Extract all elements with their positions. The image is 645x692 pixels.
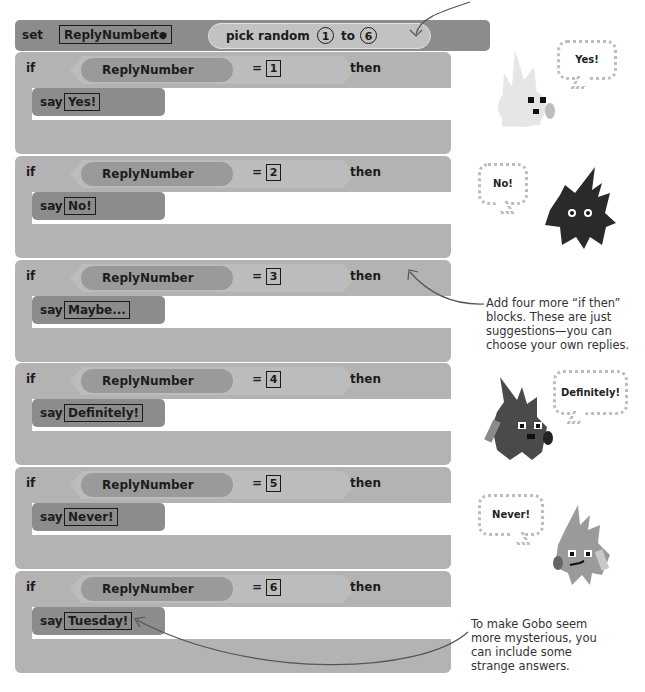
say-text-input[interactable]: Yes! (64, 93, 100, 111)
if-header: if ReplyNumber = 5 then (15, 467, 451, 503)
say-block[interactable]: say Maybe... (32, 296, 165, 324)
then-keyword: then (350, 372, 381, 386)
variable-name: ReplyNumber (102, 63, 194, 77)
speech-bubble: No! (478, 163, 528, 205)
equals-operator: = (252, 269, 262, 283)
say-block[interactable]: say Yes! (32, 88, 165, 116)
gobo-character-white (482, 45, 562, 135)
say-keyword: say (40, 510, 63, 524)
variable-name: ReplyNumber (102, 582, 194, 596)
variable-reporter[interactable]: ReplyNumber (81, 58, 233, 82)
if-arm (15, 399, 32, 433)
speech-bubble: Yes! (557, 40, 617, 80)
if-header: if ReplyNumber = 6 then (15, 571, 451, 607)
variable-reporter[interactable]: ReplyNumber (81, 369, 233, 393)
say-text-input[interactable]: No! (64, 197, 96, 215)
speech-bubble: Definitely! (553, 370, 628, 415)
if-header: if ReplyNumber = 4 then (15, 363, 451, 399)
compare-value-input[interactable]: 3 (266, 268, 281, 285)
compare-value-input[interactable]: 2 (266, 164, 281, 181)
equals-operator: = (252, 372, 262, 386)
gobo-character-dark (482, 372, 562, 467)
annotation-add-more: Add four more “if then” blocks. These ar… (486, 296, 636, 352)
if-keyword: if (26, 165, 35, 179)
if-arm (15, 192, 32, 226)
variable-name: ReplyNumber (102, 271, 194, 285)
compare-value-input[interactable]: 4 (266, 371, 281, 388)
pick-random-block[interactable]: pick random 1 to 6 (208, 23, 431, 49)
if-header: if ReplyNumber = 3 then (15, 260, 451, 296)
gobo-character-grey (540, 495, 620, 590)
if-header: if ReplyNumber = 2 then (15, 156, 451, 192)
if-keyword: if (26, 269, 35, 283)
say-text-input[interactable]: Tuesday! (64, 612, 132, 630)
if-footer (15, 535, 451, 569)
if-footer (15, 328, 451, 362)
equals-operator: = (252, 165, 262, 179)
variable-name: ReplyNumber (64, 28, 156, 42)
if-keyword: if (26, 476, 35, 490)
equals-operator: = (252, 476, 262, 490)
random-to-input[interactable]: 6 (360, 27, 377, 44)
variable-name: ReplyNumber (102, 167, 194, 181)
if-keyword: if (26, 580, 35, 594)
say-keyword: say (40, 614, 63, 628)
variable-reporter[interactable]: ReplyNumber (81, 473, 233, 497)
if-header: if ReplyNumber = 1 then (15, 52, 451, 88)
equals-operator: = (252, 61, 262, 75)
say-block[interactable]: say Definitely! (32, 399, 165, 427)
then-keyword: then (350, 580, 381, 594)
if-arm (15, 503, 32, 537)
if-footer (15, 120, 451, 154)
set-variable-block[interactable]: set ReplyNumber ▼ to pick random 1 to 6 (15, 20, 490, 51)
if-arm (15, 607, 32, 641)
then-keyword: then (350, 165, 381, 179)
if-keyword: if (26, 372, 35, 386)
then-keyword: then (350, 476, 381, 490)
to-keyword: to (153, 28, 167, 42)
variable-reporter[interactable]: ReplyNumber (81, 266, 233, 290)
variable-name: ReplyNumber (102, 478, 194, 492)
say-text-input[interactable]: Never! (64, 508, 118, 526)
compare-value-input[interactable]: 5 (266, 475, 281, 492)
say-block[interactable]: say No! (32, 192, 165, 220)
say-block[interactable]: say Tuesday! (32, 607, 165, 635)
variable-name: ReplyNumber (102, 374, 194, 388)
say-keyword: say (40, 199, 63, 213)
random-to-keyword: to (341, 29, 355, 43)
random-from-input[interactable]: 1 (317, 27, 334, 44)
pick-random-label: pick random (226, 29, 310, 43)
then-keyword: then (350, 61, 381, 75)
say-keyword: say (40, 95, 63, 109)
if-footer (15, 639, 451, 673)
compare-value-input[interactable]: 6 (266, 579, 281, 596)
variable-reporter[interactable]: ReplyNumber (81, 577, 233, 601)
if-arm (15, 88, 32, 122)
say-text-input[interactable]: Definitely! (64, 404, 143, 422)
say-keyword: say (40, 303, 63, 317)
speech-bubble: Never! (478, 494, 544, 536)
then-keyword: then (350, 269, 381, 283)
if-footer (15, 431, 451, 465)
compare-value-input[interactable]: 1 (266, 60, 281, 77)
say-block[interactable]: say Never! (32, 503, 165, 531)
if-keyword: if (26, 61, 35, 75)
variable-reporter[interactable]: ReplyNumber (81, 162, 233, 186)
if-arm (15, 296, 32, 330)
gobo-character-black (540, 165, 620, 255)
if-footer (15, 224, 451, 258)
set-keyword: set (22, 28, 43, 42)
equals-operator: = (252, 580, 262, 594)
say-keyword: say (40, 406, 63, 420)
say-text-input[interactable]: Maybe... (64, 301, 130, 319)
annotation-strange-answers: To make Gobo seem more mysterious, you c… (471, 617, 611, 673)
